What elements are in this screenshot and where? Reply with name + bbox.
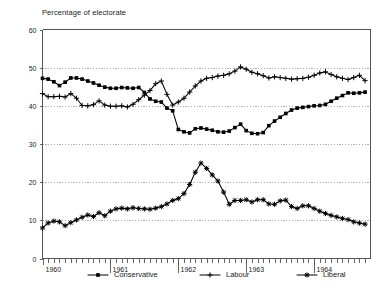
data-point-marker-square (109, 87, 112, 90)
data-point-marker-square (183, 130, 186, 133)
data-point-marker-square (256, 132, 259, 135)
data-point-marker-square (352, 92, 355, 95)
x-tick-label: 1960 (46, 266, 62, 273)
data-point-marker-asterisk (300, 203, 305, 208)
data-point-marker-asterisk (85, 212, 90, 217)
data-point-marker-square (188, 132, 191, 135)
y-tick-label: 0 (33, 256, 37, 263)
data-point-marker-asterisk (283, 198, 288, 203)
data-point-marker-square (318, 104, 321, 107)
data-point-marker-asterisk (125, 206, 130, 211)
data-point-marker-asterisk (227, 202, 232, 207)
data-point-marker-square (222, 131, 225, 134)
data-point-marker-plus (85, 103, 90, 108)
data-point-marker-square (154, 100, 157, 103)
data-point-marker-plus (215, 73, 220, 78)
data-point-marker-asterisk (317, 209, 322, 214)
legend-item-conservative[interactable]: Conservative (88, 270, 158, 279)
data-point-marker-asterisk (57, 219, 62, 224)
data-point-marker-square (273, 120, 276, 123)
data-point-marker-plus (345, 77, 350, 82)
data-point-marker-square (126, 87, 129, 90)
data-point-marker-asterisk (108, 209, 113, 214)
data-point-marker-square (53, 80, 56, 83)
data-point-marker-square (58, 84, 61, 87)
data-point-marker-square (137, 86, 140, 89)
data-point-marker-asterisk (255, 197, 260, 202)
data-point-marker-asterisk (46, 220, 51, 225)
data-point-marker-asterisk (40, 225, 45, 230)
data-point-marker-plus (63, 94, 68, 99)
series-line-liberal (43, 163, 366, 228)
data-point-marker-square (177, 128, 180, 131)
data-point-marker-square (97, 274, 100, 277)
data-point-marker-asterisk (51, 218, 56, 223)
data-point-marker-plus (40, 91, 45, 96)
series-line-labour (43, 67, 366, 107)
data-point-marker-square (211, 129, 214, 132)
legend-label: Liberal (323, 270, 346, 279)
data-point-marker-asterisk (357, 220, 362, 225)
data-point-marker-plus (278, 75, 283, 80)
data-point-marker-asterisk (130, 205, 135, 210)
data-point-marker-square (239, 123, 242, 126)
y-tick-label: 60 (29, 27, 37, 34)
data-point-marker-plus (329, 72, 334, 77)
data-point-marker-asterisk (187, 182, 192, 187)
data-point-marker-asterisk (304, 272, 309, 277)
y-tick-label: 30 (29, 141, 37, 148)
data-point-marker-square (262, 131, 265, 134)
data-point-marker-square (358, 92, 361, 95)
data-point-marker-square (200, 127, 203, 130)
line-chart-plot: 0102030405060 19601961196219631964 Conse… (0, 0, 387, 290)
data-point-marker-square (47, 78, 50, 81)
data-point-marker-square (296, 107, 299, 110)
data-point-marker-asterisk (249, 199, 254, 204)
x-tick-label: 1963 (249, 266, 265, 273)
series-line-conservative (43, 78, 366, 134)
data-point-marker-asterisk (159, 204, 164, 209)
data-point-marker-square (41, 77, 44, 80)
data-point-marker-square (313, 105, 316, 108)
data-point-marker-square (103, 86, 106, 89)
data-point-marker-square (301, 106, 304, 109)
legend-item-labour[interactable]: Labour (200, 270, 250, 279)
data-point-marker-asterisk (170, 198, 175, 203)
data-point-marker-asterisk (119, 206, 124, 211)
data-point-marker-square (86, 80, 89, 83)
data-point-marker-asterisk (193, 170, 198, 175)
data-point-marker-square (81, 78, 84, 81)
legend-label: Labour (226, 270, 250, 279)
data-point-marker-plus (289, 77, 294, 82)
data-point-marker-plus (283, 76, 288, 81)
data-point-marker-square (160, 101, 163, 104)
data-point-marker-plus (261, 73, 266, 78)
data-point-marker-plus (210, 75, 215, 80)
data-point-marker-square (307, 105, 310, 108)
data-point-marker-asterisk (238, 198, 243, 203)
data-point-marker-asterisk (362, 222, 367, 227)
legend-label: Conservative (114, 270, 158, 279)
data-point-marker-square (115, 87, 118, 90)
data-point-marker-plus (249, 70, 254, 75)
data-point-marker-square (205, 128, 208, 131)
grid-lines (43, 69, 371, 221)
data-point-marker-plus (306, 75, 311, 80)
data-point-marker-square (279, 116, 282, 119)
data-point-marker-square (290, 109, 293, 112)
data-point-marker-square (75, 77, 78, 80)
data-point-marker-square (245, 129, 248, 132)
data-point-marker-square (166, 107, 169, 110)
data-point-marker-asterisk (215, 178, 220, 183)
data-point-marker-plus (207, 272, 212, 277)
data-point-marker-plus (119, 103, 124, 108)
data-point-marker-plus (113, 104, 118, 109)
data-point-marker-plus (164, 92, 169, 97)
data-point-marker-plus (51, 94, 56, 99)
data-point-marker-asterisk (96, 210, 101, 215)
data-point-marker-asterisk (272, 202, 277, 207)
y-tick-labels: 0102030405060 (29, 27, 37, 263)
data-point-marker-asterisk (340, 216, 345, 221)
data-point-marker-plus (221, 73, 226, 78)
data-point-marker-asterisk (345, 217, 350, 222)
